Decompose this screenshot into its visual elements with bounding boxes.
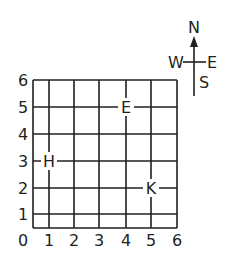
svg-text:2: 2 (69, 231, 79, 250)
svg-text:6: 6 (172, 231, 182, 250)
x-axis-labels: 0 1 2 3 4 5 6 (18, 231, 182, 250)
svg-text:5: 5 (18, 98, 28, 117)
point-k-label: K (146, 179, 157, 198)
point-h-label: H (43, 152, 55, 171)
svg-text:4: 4 (121, 231, 131, 250)
compass-rose: N W E S (168, 18, 217, 96)
svg-text:0: 0 (18, 231, 28, 250)
svg-text:2: 2 (18, 179, 28, 198)
svg-text:4: 4 (18, 125, 28, 144)
svg-text:1: 1 (44, 231, 54, 250)
svg-text:6: 6 (18, 71, 28, 90)
compass-east: E (207, 53, 217, 72)
y-axis-labels: 6 5 4 3 2 1 (18, 71, 28, 224)
svg-text:3: 3 (94, 231, 104, 250)
north-arrow-icon (190, 36, 198, 47)
compass-west: W (168, 53, 184, 72)
svg-text:1: 1 (18, 205, 28, 224)
point-e-label: E (121, 98, 131, 117)
compass-south: S (199, 73, 209, 92)
grid-map: E H K 6 5 4 3 2 1 0 1 2 3 4 5 6 N W E S (0, 0, 231, 258)
svg-text:5: 5 (146, 231, 156, 250)
compass-north: N (188, 18, 200, 37)
svg-text:3: 3 (18, 152, 28, 171)
